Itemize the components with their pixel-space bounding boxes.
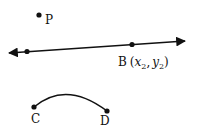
line-with-arrows <box>9 41 185 53</box>
point-b-dot <box>129 42 134 47</box>
point-p-label: P <box>45 13 53 27</box>
point-b-label: B(x2,y2) <box>118 55 169 71</box>
point-c-label: C <box>31 112 40 126</box>
arc-cd <box>34 94 107 111</box>
geometry-diagram: P B(x2,y2) C D <box>0 0 198 126</box>
line-point-left-dot <box>24 49 29 54</box>
point-p-dot <box>36 12 41 17</box>
point-d-dot <box>104 108 109 113</box>
point-d-label: D <box>100 114 110 126</box>
point-c-dot <box>31 104 36 109</box>
